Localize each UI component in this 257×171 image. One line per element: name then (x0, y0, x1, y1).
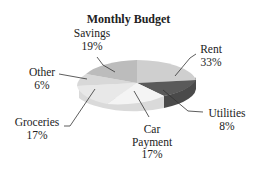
label-rent: Rent 33% (193, 43, 229, 68)
label-savings: Savings 19% (72, 27, 112, 52)
slice-rent (137, 60, 196, 83)
label-groceries: Groceries 17% (12, 116, 62, 141)
label-other: Other 6% (22, 66, 62, 91)
label-utilities: Utilities 8% (203, 107, 251, 132)
label-car-payment: Car Payment 17% (130, 123, 174, 161)
